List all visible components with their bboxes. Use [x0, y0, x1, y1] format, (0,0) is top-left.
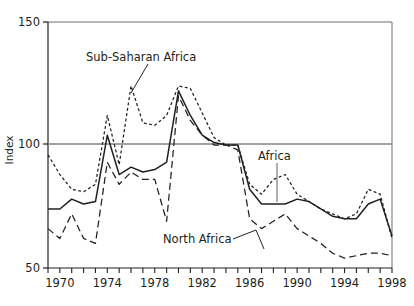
- x-tick-label-1994: 1994: [330, 276, 359, 290]
- y-tick-label-100: 100: [18, 137, 40, 151]
- x-tick-label-1974: 1974: [93, 276, 122, 290]
- chart-background: [0, 0, 414, 306]
- x-tick-label-1978: 1978: [140, 276, 169, 290]
- y-tick-label-150: 150: [18, 15, 40, 29]
- x-tick-label-1998: 1998: [377, 276, 406, 290]
- annotation-africa: Africa: [258, 149, 291, 163]
- x-tick-label-1982: 1982: [188, 276, 217, 290]
- x-tick-label-1986: 1986: [235, 276, 264, 290]
- x-tick-label-1990: 1990: [282, 276, 311, 290]
- line-chart: 150 100 50 Index 19701974197819821986199…: [0, 0, 414, 306]
- y-tick-label-50: 50: [25, 261, 40, 275]
- chart-figure: 150 100 50 Index 19701974197819821986199…: [0, 0, 414, 306]
- y-axis-title: Index: [3, 136, 15, 165]
- annotation-north-africa: North Africa: [163, 232, 232, 246]
- x-tick-label-1970: 1970: [45, 276, 74, 290]
- annotation-sub-saharan-africa: Sub-Saharan Africa: [86, 50, 196, 64]
